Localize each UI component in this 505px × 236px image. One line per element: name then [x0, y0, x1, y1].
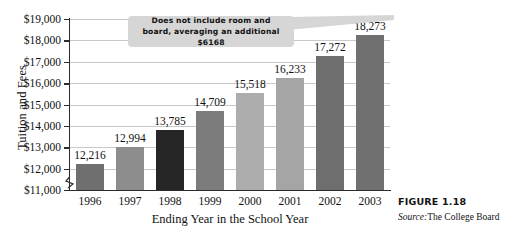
bar-value-label: 14,709 — [180, 97, 240, 109]
figure-container: Tuition and Fees $11,000$12,000$13,000$1… — [0, 0, 505, 236]
bar-value-label: 13,785 — [140, 116, 200, 128]
callout-text: Does not include room and board, averagi… — [128, 16, 294, 47]
y-axis-tick — [64, 147, 70, 148]
x-axis-tick-label: 2003 — [340, 196, 400, 208]
bar-value-label: 15,518 — [220, 79, 280, 91]
callout-line-1: Does not include room and — [152, 15, 271, 26]
source-label: Source: — [398, 212, 427, 222]
y-axis-tick — [64, 19, 70, 20]
bar-value-label: 12,994 — [100, 133, 160, 145]
y-axis-tick-label: $11,000 — [0, 185, 61, 197]
bar — [116, 147, 144, 190]
x-axis-line — [69, 190, 391, 191]
figure-source: Source:The College Board — [398, 212, 505, 222]
y-axis-tick-label: $16,000 — [0, 78, 61, 90]
y-axis-tick-label: $17,000 — [0, 57, 61, 69]
y-axis-tick — [64, 40, 70, 41]
bar — [76, 164, 104, 190]
room-and-board-callout: Does not include room and board, averagi… — [128, 16, 294, 47]
bar — [356, 35, 384, 190]
y-axis-tick — [64, 190, 70, 191]
bar — [316, 56, 344, 190]
bar — [276, 78, 304, 190]
y-axis-tick — [64, 105, 70, 106]
bar — [156, 130, 184, 190]
x-axis-title: Ending Year in the School Year — [70, 212, 390, 227]
bar — [196, 111, 224, 190]
axis-break-icon — [64, 176, 75, 189]
bar-value-label: 16,233 — [260, 64, 320, 76]
y-axis-tick-label: $18,000 — [0, 35, 61, 47]
y-axis-tick-label: $12,000 — [0, 164, 61, 176]
y-axis-tick-label: $13,000 — [0, 142, 61, 154]
y-axis-tick-label: $19,000 — [0, 14, 61, 26]
callout-line-2: board, averaging an additional $6168 — [128, 26, 294, 48]
y-axis-tick-label: $14,000 — [0, 121, 61, 133]
callout-pointer-icon — [288, 14, 394, 44]
y-axis-tick — [64, 126, 70, 127]
source-value: The College Board — [427, 212, 499, 222]
figure-number: FIGURE 1.18 — [398, 196, 505, 207]
y-axis-tick — [64, 169, 70, 170]
figure-caption: FIGURE 1.18 Source:The College Board — [398, 196, 505, 222]
y-axis-tick-label: $15,000 — [0, 100, 61, 112]
y-axis-tick — [64, 62, 70, 63]
y-axis-tick — [64, 83, 70, 84]
bar-value-label: 12,216 — [60, 150, 120, 162]
bar — [236, 93, 264, 190]
